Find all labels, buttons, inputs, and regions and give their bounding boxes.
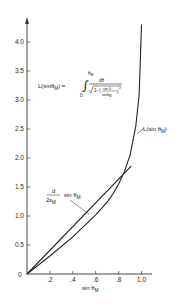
x-axis-label: sin θM — [82, 285, 99, 293]
y-tick-label: 1.5 — [15, 183, 24, 190]
line-label: d 2εM sin θM — [46, 188, 89, 214]
y-tick-label: 2.0 — [15, 154, 24, 161]
y-tick-label: 2.5 — [15, 125, 24, 132]
y-tick-label: 3.5 — [15, 67, 24, 74]
curve-label-text: L(sin θM) — [143, 126, 167, 134]
y-ticks: 0.51.01.52.02.53.03.54.0 — [15, 38, 30, 248]
inner-numerator: sin θ — [103, 87, 111, 91]
x-tick-label: .6 — [93, 276, 99, 283]
x-tick-label: 1.0 — [137, 276, 146, 283]
y-tick-label: 0.5 — [15, 241, 24, 248]
y-tick-label: 1.0 — [15, 212, 24, 219]
numerator: dθ — [99, 78, 105, 83]
x-tick-label: .8 — [116, 276, 122, 283]
integral-sign-icon: ∫ — [82, 78, 89, 93]
series-linear-line — [27, 166, 131, 274]
equation-annotation: L(sinθM) = ∫ θM 0 dθ 1−( sin θ sinθM ) 2 — [38, 71, 122, 98]
inner-denominator: sinθM — [102, 93, 112, 98]
integral-upper: θM — [88, 71, 94, 77]
line-label-num: d — [52, 188, 55, 194]
curve-label: L(sin θM) — [137, 126, 167, 134]
y-tick-label: 4.0 — [15, 38, 24, 45]
y-axis-arrow-icon — [25, 17, 29, 24]
integral-lower: 0 — [80, 93, 83, 98]
x-ticks: .2.4.6.81.0 — [47, 271, 146, 283]
y-tick-label: 3.0 — [15, 96, 24, 103]
chart: 0.51.01.52.02.53.03.54.0 .2.4.6.81.0 0 s… — [0, 0, 185, 308]
series-L-curve — [27, 25, 142, 274]
exponent: 2 — [119, 86, 121, 90]
equation-lhs: L(sinθM) = — [38, 83, 66, 91]
x-tick-label: .4 — [70, 276, 76, 283]
origin-label: 0 — [18, 271, 22, 278]
line-label-den: 2εM — [46, 197, 56, 205]
x-tick-label: .2 — [47, 276, 53, 283]
line-label-suffix: sin θM — [64, 192, 81, 200]
denominator-prefix: 1−( — [94, 88, 101, 93]
axes — [25, 17, 152, 274]
